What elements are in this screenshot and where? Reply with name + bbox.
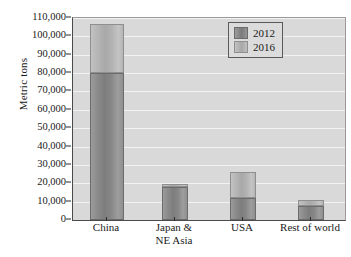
bar-group	[90, 24, 124, 220]
x-tick-label: Rest of world	[260, 221, 351, 234]
y-tick-label: 50,000	[0, 122, 66, 132]
y-tick-label: 80,000	[0, 67, 66, 77]
y-tick-mark	[66, 72, 71, 73]
y-tick-label: 30,000	[0, 159, 66, 169]
chart-legend: 20122016	[228, 22, 283, 58]
y-tick-mark	[66, 127, 71, 128]
y-tick-mark	[66, 90, 71, 91]
bar-segment-2012	[230, 198, 256, 220]
bar-segment-2016	[230, 172, 256, 198]
y-tick-mark	[66, 219, 71, 220]
y-tick-mark	[66, 35, 71, 36]
legend-swatch-2012	[234, 27, 248, 39]
bar-group	[162, 184, 188, 220]
bar-segment-2012	[162, 187, 188, 220]
y-axis-tick-labels: 010,00020,00030,00040,00050,00060,00070,…	[0, 0, 72, 257]
bar-chart-figure: Metric tons 010,00020,00030,00040,00050,…	[0, 0, 351, 257]
y-tick-mark	[66, 145, 71, 146]
legend-swatch-2016	[234, 41, 248, 53]
y-tick-label: 90,000	[0, 49, 66, 59]
legend-label: 2012	[253, 28, 275, 39]
y-tick-label: 70,000	[0, 85, 66, 95]
y-tick-mark	[66, 200, 71, 201]
y-tick-label: 60,000	[0, 104, 66, 114]
bar-segment-2012	[298, 206, 324, 220]
y-tick-mark	[66, 17, 71, 18]
y-tick-mark	[66, 163, 71, 164]
gridline	[73, 18, 345, 19]
y-tick-mark	[66, 108, 71, 109]
y-tick-mark	[66, 182, 71, 183]
y-tick-mark	[66, 53, 71, 54]
y-tick-label: 20,000	[0, 177, 66, 187]
plot-area	[72, 17, 346, 221]
y-tick-label: 40,000	[0, 141, 66, 151]
bar-segment-2012	[90, 73, 124, 220]
y-tick-label: 110,000	[0, 12, 66, 22]
legend-item-2016: 2016	[234, 40, 275, 54]
y-tick-label: 10,000	[0, 196, 66, 206]
bar-segment-2016	[90, 24, 124, 74]
bar-group	[298, 200, 324, 220]
legend-label: 2016	[253, 42, 275, 53]
y-tick-label: 100,000	[0, 30, 66, 40]
legend-item-2012: 2012	[234, 26, 275, 40]
x-axis-tick-labels: ChinaJapan & NE AsiaUSARest of world	[72, 221, 346, 257]
bar-group	[230, 172, 256, 220]
